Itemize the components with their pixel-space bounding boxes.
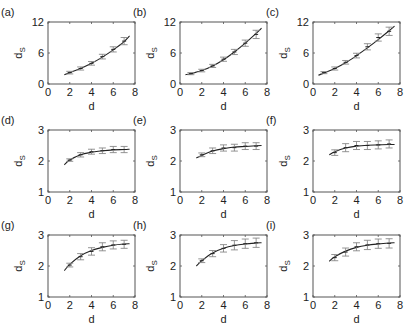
- x-tick-label: 0: [177, 299, 183, 311]
- y-tick-label: 1: [170, 186, 176, 198]
- x-tick-label: 4: [88, 86, 94, 98]
- panel-label: (b): [133, 6, 146, 18]
- x-tick-label: 2: [332, 86, 338, 98]
- x-axis-label: d: [353, 313, 359, 325]
- x-tick-label: 6: [110, 86, 116, 98]
- x-tick-label: 2: [199, 194, 205, 206]
- axes-frame: [48, 130, 135, 192]
- y-tick-label: 12: [164, 16, 176, 28]
- y-tick-label: 12: [297, 16, 309, 28]
- y-axis-label: dS: [144, 47, 159, 58]
- x-axis-label: d: [353, 100, 359, 112]
- panel-d: (d)02468123ddS: [1, 114, 138, 220]
- x-tick-label: 6: [242, 194, 248, 206]
- y-axis-label: dS: [277, 155, 292, 166]
- x-tick-label: 2: [67, 194, 73, 206]
- y-tick-label: 2: [303, 260, 309, 272]
- x-tick-label: 6: [110, 299, 116, 311]
- x-tick-label: 8: [132, 86, 138, 98]
- y-tick-label: 6: [38, 47, 44, 59]
- panel-label: (d): [1, 114, 14, 126]
- fit-curve: [318, 26, 394, 75]
- fit-curve: [64, 149, 129, 165]
- x-tick-label: 8: [397, 86, 403, 98]
- x-tick-label: 0: [177, 86, 183, 98]
- fit-curve: [196, 243, 261, 266]
- y-tick-label: 3: [303, 124, 309, 136]
- x-tick-label: 4: [220, 299, 226, 311]
- fit-curve: [329, 243, 394, 262]
- x-tick-label: 0: [45, 86, 51, 98]
- x-tick-label: 0: [310, 299, 316, 311]
- axes-frame: [48, 22, 135, 84]
- y-tick-label: 6: [170, 47, 176, 59]
- y-tick-label: 3: [170, 229, 176, 241]
- y-tick-label: 2: [170, 260, 176, 272]
- y-tick-label: 0: [38, 78, 44, 90]
- axes-frame: [313, 130, 400, 192]
- axes-frame: [180, 130, 267, 192]
- y-tick-label: 2: [303, 155, 309, 167]
- panel-c: (c)024680612ddS: [266, 6, 403, 112]
- x-tick-label: 6: [242, 299, 248, 311]
- x-axis-label: d: [88, 100, 94, 112]
- y-axis-label: dS: [12, 155, 27, 166]
- x-tick-label: 8: [397, 299, 403, 311]
- x-tick-label: 8: [132, 194, 138, 206]
- y-axis-label: dS: [144, 260, 159, 271]
- panel-e: (e)02468123ddS: [133, 114, 270, 220]
- panel-label: (a): [1, 6, 14, 18]
- x-tick-label: 2: [67, 299, 73, 311]
- x-tick-label: 2: [199, 299, 205, 311]
- x-tick-label: 4: [220, 194, 226, 206]
- y-tick-label: 0: [170, 78, 176, 90]
- y-tick-label: 2: [38, 155, 44, 167]
- error-bar: [198, 69, 205, 72]
- x-axis-label: d: [88, 313, 94, 325]
- panel-g: (g)02468123ddS: [1, 219, 138, 325]
- x-tick-label: 8: [132, 299, 138, 311]
- panel-f: (f)02468123ddS: [266, 114, 403, 220]
- y-tick-label: 1: [303, 291, 309, 303]
- y-tick-label: 12: [32, 16, 44, 28]
- y-axis-label: dS: [277, 47, 292, 58]
- x-tick-label: 4: [353, 299, 359, 311]
- y-tick-label: 6: [303, 47, 309, 59]
- panel-label: (g): [1, 219, 14, 231]
- y-tick-label: 3: [170, 124, 176, 136]
- x-tick-label: 4: [353, 194, 359, 206]
- fit-curve: [185, 28, 261, 74]
- fit-curve: [64, 244, 129, 271]
- y-tick-label: 3: [38, 124, 44, 136]
- fit-curve: [196, 146, 261, 158]
- panel-label: (i): [266, 219, 276, 231]
- x-tick-label: 8: [264, 86, 270, 98]
- fit-curve: [329, 145, 394, 155]
- y-axis-label: dS: [12, 47, 27, 58]
- x-tick-label: 0: [45, 194, 51, 206]
- x-axis-label: d: [88, 208, 94, 220]
- x-tick-label: 4: [353, 86, 359, 98]
- x-axis-label: d: [220, 313, 226, 325]
- y-axis-label: dS: [277, 260, 292, 271]
- error-bar: [220, 245, 227, 252]
- x-tick-label: 2: [199, 86, 205, 98]
- y-tick-label: 1: [38, 186, 44, 198]
- panel-a: (a)024680612ddS: [1, 6, 138, 112]
- y-tick-label: 2: [170, 155, 176, 167]
- x-tick-label: 2: [332, 299, 338, 311]
- x-tick-label: 6: [375, 299, 381, 311]
- x-tick-label: 8: [264, 194, 270, 206]
- y-axis-label: dS: [12, 260, 27, 271]
- y-tick-label: 3: [303, 229, 309, 241]
- y-tick-label: 1: [38, 291, 44, 303]
- panel-label: (e): [133, 114, 146, 126]
- panel-h: (h)02468123ddS: [133, 219, 270, 325]
- panel-label: (c): [266, 6, 279, 18]
- panel-b: (b)024680612ddS: [133, 6, 270, 112]
- x-tick-label: 8: [264, 299, 270, 311]
- x-tick-label: 0: [177, 194, 183, 206]
- x-axis-label: d: [220, 208, 226, 220]
- error-bar: [66, 159, 73, 161]
- error-bar: [66, 71, 73, 74]
